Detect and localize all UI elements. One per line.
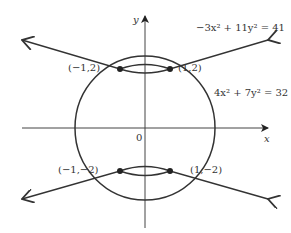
point-neg1-neg2	[117, 168, 123, 174]
point-label-neg1-2: (−1,2)	[68, 62, 100, 73]
diagram-canvas	[0, 0, 291, 233]
point-label-neg1-neg2: (−1,−2)	[58, 164, 98, 175]
x-axis-label: x	[264, 133, 270, 144]
point-neg1-2	[117, 66, 123, 72]
point-1-2	[167, 66, 173, 72]
y-axis-label: y	[133, 14, 139, 25]
point-label-1-neg2: (1,−2)	[190, 164, 222, 175]
point-1-neg2	[167, 168, 173, 174]
hyperbola-equation: −3x² + 11y² = 41	[196, 22, 285, 33]
origin-label: 0	[136, 132, 142, 143]
ellipse-equation: 4x² + 7y² = 32	[214, 87, 288, 98]
point-label-1-2: (1,2)	[178, 62, 202, 73]
